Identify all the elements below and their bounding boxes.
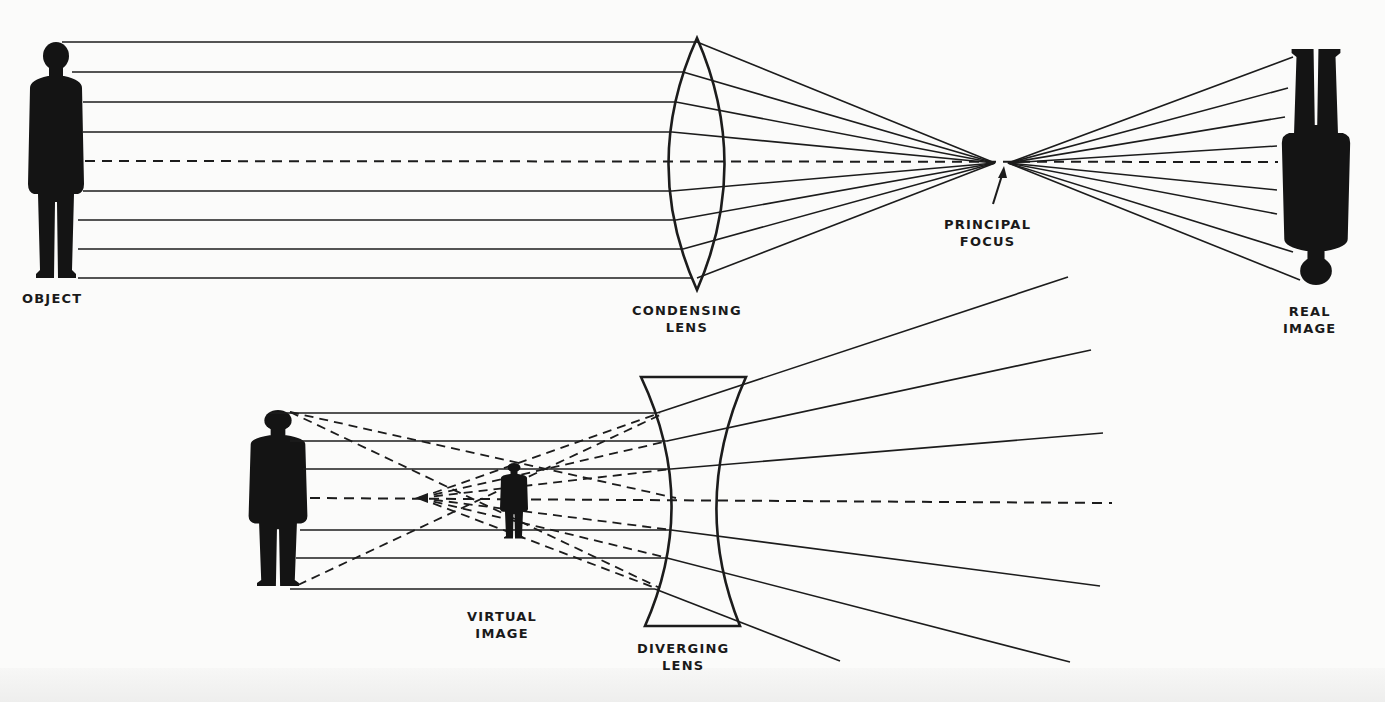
virtual-image-label: VIRTUAL IMAGE xyxy=(467,608,537,642)
optical-axis-bottom xyxy=(310,498,1112,503)
diverging-lens-icon xyxy=(641,377,746,626)
real-image-label: REAL IMAGE xyxy=(1283,303,1336,337)
incident-rays xyxy=(62,42,697,278)
condensing-lens-diagram xyxy=(28,38,1350,290)
object-silhouette-icon xyxy=(28,42,84,278)
optical-axis xyxy=(85,161,1278,162)
optics-diagram xyxy=(0,0,1385,702)
real-image-silhouette-icon xyxy=(1282,49,1350,285)
principal-focus-label: PRINCIPAL FOCUS xyxy=(944,216,1031,250)
incident-rays-bottom xyxy=(270,413,671,589)
object-label: OBJECT xyxy=(22,290,82,307)
virtual-focus-icon xyxy=(415,493,428,503)
object-silhouette-small-icon xyxy=(249,410,308,586)
diverging-lens-label: DIVERGING LENS xyxy=(637,640,729,674)
image-rays xyxy=(1008,57,1300,280)
condensing-lens-label: CONDENSING LENS xyxy=(632,302,742,336)
focus-arrow-icon xyxy=(993,166,1007,204)
